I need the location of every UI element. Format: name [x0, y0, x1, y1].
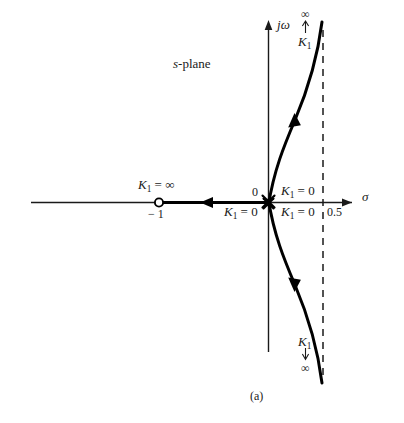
asymptote-value-label: 0.5	[327, 206, 342, 218]
locus-lower-arrowhead	[288, 278, 301, 293]
real-axis-label: σ	[362, 190, 368, 203]
zero-gain-infinity-label: K1 = ∞	[138, 178, 174, 194]
open-loop-zero-marker	[155, 198, 163, 206]
locus-real-arrowhead	[200, 197, 213, 208]
pole-gain-zero-lower-right-label: K1 = 0	[281, 205, 315, 221]
pole-gain-zero-lower-left-label: K1 = 0	[224, 205, 258, 221]
locus-lower-curve	[269, 200, 323, 383]
origin-label: 0	[252, 186, 258, 198]
branch-bottom-gain-label: K1	[298, 335, 311, 351]
root-locus-figure: s-plane jω σ 0 − 1 0.5 K1 = ∞ K1 = 0 K1 …	[0, 0, 404, 423]
imaginary-axis-arrowhead	[265, 20, 273, 30]
locus-lower-complex-branch	[269, 200, 323, 383]
branch-bottom-infinity-label: ∞	[301, 362, 310, 374]
branch-top-gain-label: K1	[298, 35, 311, 51]
real-axis-arrowhead	[342, 199, 352, 207]
zero-tick-label: − 1	[148, 208, 164, 220]
pole-gain-zero-upper-right-label: K1 = 0	[281, 184, 315, 200]
locus-upper-curve	[269, 22, 323, 205]
figure-caption: (a)	[250, 390, 263, 402]
locus-upper-complex-branch	[269, 22, 323, 205]
imaginary-axis-label: jω	[277, 18, 290, 31]
branch-top-direction-arrow	[302, 21, 308, 33]
locus-upper-arrowhead	[288, 113, 301, 128]
branch-top-infinity-label: ∞	[301, 8, 310, 20]
s-plane-label: s-plane	[173, 57, 211, 70]
